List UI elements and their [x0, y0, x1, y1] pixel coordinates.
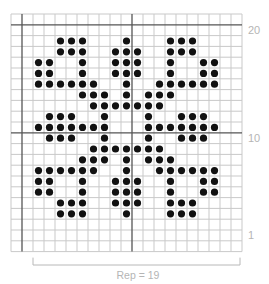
purl-stitch-dot: [211, 167, 218, 174]
purl-stitch-dot: [90, 102, 97, 109]
purl-stitch-dot: [167, 59, 174, 66]
purl-stitch-dot: [178, 113, 185, 120]
purl-stitch-dot: [57, 37, 64, 44]
purl-stitch-dot: [211, 59, 218, 66]
purl-stitch-dot: [46, 59, 53, 66]
purl-stitch-dot: [90, 145, 97, 152]
purl-stitch-dot: [46, 135, 53, 142]
purl-stitch-dot: [57, 135, 64, 142]
purl-stitch-dot: [211, 178, 218, 185]
purl-stitch-dot: [178, 124, 185, 131]
purl-stitch-dot: [134, 70, 141, 77]
purl-stitch-dot: [200, 124, 207, 131]
purl-stitch-dot: [101, 135, 108, 142]
purl-stitch-dot: [68, 81, 75, 88]
purl-stitch-dot: [189, 124, 196, 131]
purl-stitch-dot: [167, 178, 174, 185]
purl-stitch-dot: [79, 91, 86, 98]
purl-stitch-dot: [79, 124, 86, 131]
knitting-chart: [0, 0, 269, 284]
purl-stitch-dot: [200, 81, 207, 88]
purl-stitch-dot: [46, 189, 53, 196]
purl-stitch-dot: [101, 113, 108, 120]
purl-stitch-dot: [145, 135, 152, 142]
purl-stitch-dot: [189, 135, 196, 142]
purl-stitch-dot: [123, 59, 130, 66]
purl-stitch-dot: [167, 156, 174, 163]
purl-stitch-dot: [145, 102, 152, 109]
purl-stitch-dot: [57, 210, 64, 217]
purl-stitch-dot: [68, 210, 75, 217]
purl-stitch-dot: [112, 199, 119, 206]
purl-stitch-dot: [156, 167, 163, 174]
purl-stitch-dot: [35, 167, 42, 174]
purl-stitch-dot: [178, 199, 185, 206]
purl-stitch-dot: [79, 189, 86, 196]
purl-stitch-dot: [79, 81, 86, 88]
purl-stitch-dot: [178, 135, 185, 142]
purl-stitch-dot: [90, 81, 97, 88]
purl-stitch-dot: [35, 189, 42, 196]
purl-stitch-dot: [178, 210, 185, 217]
purl-stitch-dot: [101, 91, 108, 98]
purl-stitch-dot: [112, 102, 119, 109]
purl-stitch-dot: [167, 189, 174, 196]
purl-stitch-dot: [200, 59, 207, 66]
purl-stitch-dot: [57, 124, 64, 131]
purl-stitch-dot: [156, 91, 163, 98]
purl-stitch-dot: [189, 113, 196, 120]
purl-stitch-dot: [123, 167, 130, 174]
purl-stitch-dot: [68, 48, 75, 55]
purl-stitch-dot: [35, 178, 42, 185]
purl-stitch-dot: [123, 189, 130, 196]
purl-stitch-dot: [79, 167, 86, 174]
purl-stitch-dot: [79, 37, 86, 44]
purl-stitch-dot: [46, 124, 53, 131]
purl-stitch-dot: [167, 91, 174, 98]
purl-stitch-dot: [167, 70, 174, 77]
purl-stitch-dot: [90, 167, 97, 174]
purl-stitch-dot: [90, 124, 97, 131]
purl-stitch-dot: [178, 81, 185, 88]
row-label: 10: [248, 132, 260, 144]
purl-stitch-dot: [57, 48, 64, 55]
purl-stitch-dot: [101, 145, 108, 152]
repeat-label: Rep = 19: [117, 269, 160, 281]
purl-stitch-dot: [200, 135, 207, 142]
purl-stitch-dot: [178, 167, 185, 174]
purl-stitch-dot: [156, 124, 163, 131]
purl-stitch-dot: [46, 113, 53, 120]
row-label: 20: [248, 24, 260, 36]
purl-stitch-dot: [189, 37, 196, 44]
purl-stitch-dot: [167, 37, 174, 44]
purl-stitch-dot: [68, 199, 75, 206]
purl-stitch-dot: [134, 48, 141, 55]
purl-stitch-dot: [145, 113, 152, 120]
purl-stitch-dot: [211, 124, 218, 131]
purl-stitch-dot: [200, 70, 207, 77]
purl-stitch-dot: [46, 178, 53, 185]
purl-stitch-dot: [112, 145, 119, 152]
purl-stitch-dot: [123, 48, 130, 55]
purl-stitch-dot: [167, 199, 174, 206]
purl-stitch-dot: [123, 145, 130, 152]
purl-stitch-dot: [68, 167, 75, 174]
purl-stitch-dot: [123, 156, 130, 163]
purl-stitch-dot: [35, 59, 42, 66]
purl-stitch-dot: [57, 81, 64, 88]
purl-stitch-dot: [167, 210, 174, 217]
purl-stitch-dot: [200, 167, 207, 174]
purl-stitch-dot: [68, 113, 75, 120]
purl-stitch-dot: [112, 48, 119, 55]
purl-stitch-dot: [156, 102, 163, 109]
purl-stitch-dot: [211, 70, 218, 77]
purl-stitch-dot: [123, 91, 130, 98]
purl-stitch-dot: [145, 124, 152, 131]
purl-stitch-dot: [79, 156, 86, 163]
purl-stitch-dot: [200, 189, 207, 196]
purl-stitch-dot: [112, 189, 119, 196]
purl-stitch-dot: [189, 210, 196, 217]
repeat-bracket: [33, 258, 240, 265]
purl-stitch-dot: [134, 178, 141, 185]
purl-stitch-dot: [145, 156, 152, 163]
